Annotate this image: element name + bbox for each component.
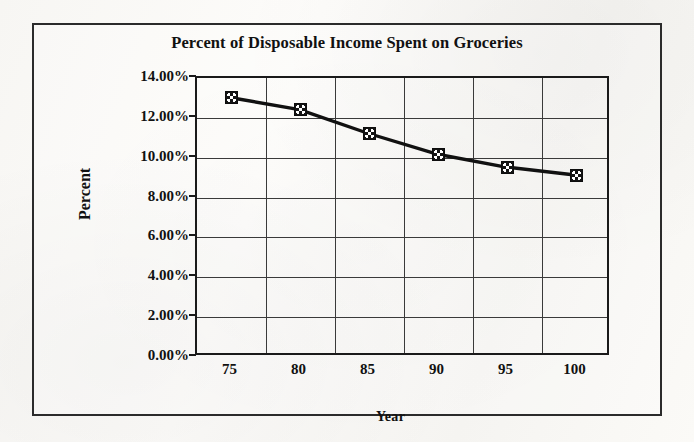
- y-axis-tick-label: 12.00%: [140, 107, 189, 124]
- x-axis-tick-label: 95: [498, 361, 513, 378]
- plot-area: [195, 76, 609, 355]
- data-point-marker: [294, 103, 307, 116]
- data-point-marker: [225, 91, 238, 104]
- chart-title: Percent of Disposable Income Spent on Gr…: [34, 33, 660, 53]
- x-axis-tick-label: 100: [563, 361, 586, 378]
- y-axis-tick-label: 2.00%: [148, 307, 189, 324]
- chart-screenshot: Percent of Disposable Income Spent on Gr…: [0, 0, 694, 442]
- chart-frame: Percent of Disposable Income Spent on Gr…: [32, 23, 662, 416]
- y-axis-tick-labels: 14.00%12.00%10.00%8.00%6.00%4.00%2.00%0.…: [34, 76, 189, 355]
- data-point-marker: [570, 169, 583, 182]
- x-axis-tick-label: 80: [291, 361, 306, 378]
- y-axis-tick-label: 10.00%: [140, 147, 189, 164]
- x-axis-tick-label: 90: [429, 361, 444, 378]
- x-axis-title: Year: [376, 409, 405, 425]
- y-axis-tick-label: 8.00%: [148, 187, 189, 204]
- data-point-marker: [363, 127, 376, 140]
- data-point-marker: [432, 148, 445, 161]
- y-axis-title: Percent: [76, 198, 94, 220]
- x-axis-tick-label: 85: [360, 361, 375, 378]
- y-axis-tick-label: 6.00%: [148, 227, 189, 244]
- y-axis-tick-label: 4.00%: [148, 267, 189, 284]
- x-axis-tick-label: 75: [222, 361, 237, 378]
- x-axis-tick-labels: 7580859095100: [195, 361, 609, 387]
- y-axis-tick-label: 14.00%: [140, 68, 189, 85]
- y-axis-tick-label: 0.00%: [148, 347, 189, 364]
- data-point-marker: [501, 161, 514, 174]
- data-line: [197, 78, 607, 354]
